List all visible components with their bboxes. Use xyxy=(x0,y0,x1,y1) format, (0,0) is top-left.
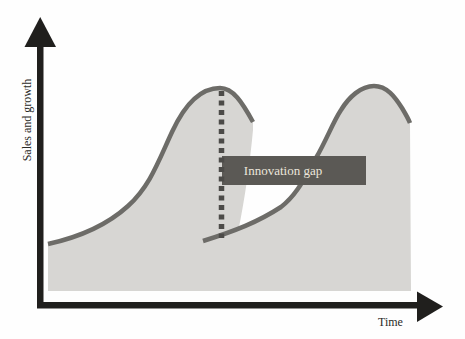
x-axis-label: Time xyxy=(378,315,403,329)
x-axis-line xyxy=(37,302,418,309)
innovation-gap-label: Innovation gap xyxy=(244,163,322,178)
x-axis-arrowhead xyxy=(417,292,443,323)
y-axis-arrowhead xyxy=(25,17,57,47)
diagram-svg: Innovation gap Sales and growth Time xyxy=(0,0,465,339)
y-axis-label: Sales and growth xyxy=(20,79,34,162)
y-axis-line xyxy=(37,44,44,308)
innovation-gap-diagram: Innovation gap Sales and growth Time xyxy=(0,0,465,339)
